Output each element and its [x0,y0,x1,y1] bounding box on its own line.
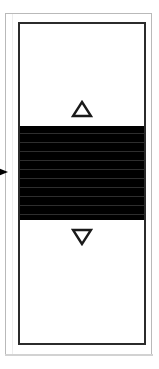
screenshot-canvas [0,0,159,369]
panel-left-gutter [12,14,13,354]
panel-frame-shadow [5,354,153,356]
scrollbar-thumb[interactable] [20,126,144,220]
triangle-down-icon [71,228,93,246]
scroll-down-button[interactable] [20,220,144,254]
scroll-up-button[interactable] [20,92,144,126]
vertical-scrollbar[interactable] [18,22,146,345]
triangle-up-icon [71,100,93,118]
pointer-arrow-icon [0,165,10,179]
